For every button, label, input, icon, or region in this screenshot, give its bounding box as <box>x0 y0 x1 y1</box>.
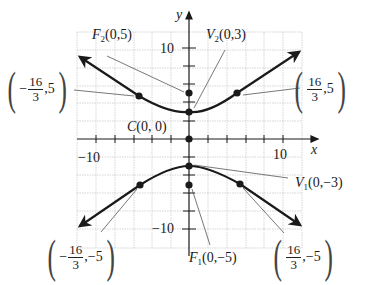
label-point-lr: ( 163 ,−5 ) <box>270 234 336 280</box>
vertex-v1-point <box>185 162 192 169</box>
latus-point-ur <box>233 89 240 96</box>
latus-point-ll <box>136 181 143 188</box>
label-v2: V2(0,3) <box>206 28 246 44</box>
label-point-ll: ( − 163 ,−5 ) <box>44 234 118 280</box>
label-f2: F2(0,5) <box>92 28 132 44</box>
y-tick-label-neg10: −10 <box>152 222 174 236</box>
vertex-v2-point <box>185 108 192 115</box>
x-tick-label-neg10: −10 <box>78 151 100 165</box>
latus-point-lr <box>236 180 243 187</box>
center-point <box>185 135 192 142</box>
focus-f1-point <box>185 181 192 188</box>
focus-f2-point <box>185 89 192 96</box>
label-f1: F1(0,−5) <box>189 251 237 267</box>
label-point-ur: ( 163 ,5 ) <box>291 66 349 112</box>
label-v1: V1(0,−3) <box>295 176 343 192</box>
x-axis-label: x <box>311 143 317 157</box>
label-point-ul: ( − 163 ,5 ) <box>4 66 70 112</box>
leader-lines <box>74 50 300 245</box>
label-center: C(0, 0) <box>127 120 167 134</box>
x-tick-label-10: 10 <box>273 148 287 162</box>
latus-point-ul <box>135 92 142 99</box>
axes <box>77 12 318 256</box>
y-axis-label: y <box>176 8 182 22</box>
y-tick-label-10: 10 <box>160 42 174 56</box>
